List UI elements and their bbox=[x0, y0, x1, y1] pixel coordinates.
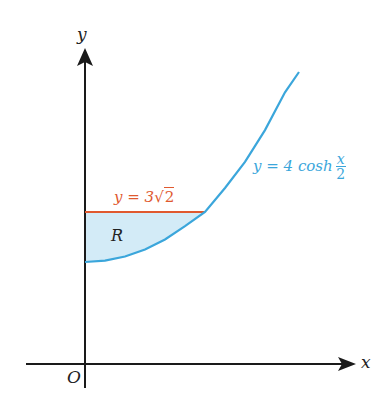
diagram: y x O R y = 3√2 y = 4 coshx2 bbox=[0, 0, 384, 403]
curve-label: y = 4 coshx2 bbox=[253, 152, 346, 181]
line-label-root: 2 bbox=[164, 187, 175, 206]
sqrt-sign: √ bbox=[154, 188, 164, 206]
y-axis-label: y bbox=[77, 24, 87, 44]
curve-label-fraction: x2 bbox=[336, 152, 346, 181]
curve-label-prefix: y = 4 cosh bbox=[253, 157, 333, 175]
diagram-canvas bbox=[0, 0, 384, 403]
line-label: y = 3√2 bbox=[114, 188, 174, 206]
line-label-prefix: y = 3 bbox=[114, 188, 154, 206]
x-axis-label: x bbox=[361, 352, 371, 372]
region-label: R bbox=[111, 226, 123, 245]
origin-label: O bbox=[67, 367, 81, 387]
fraction-denominator: 2 bbox=[336, 167, 345, 181]
fraction-numerator: x bbox=[336, 152, 346, 167]
region-r bbox=[85, 212, 205, 262]
